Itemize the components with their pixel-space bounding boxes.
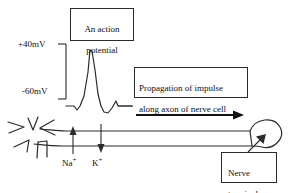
axon-membrane-lower xyxy=(34,144,252,146)
callout-nerve-terminal-line2: terminal xyxy=(228,189,276,193)
bouton-outline xyxy=(250,120,282,148)
ion-label-sodium: Na+ xyxy=(62,156,76,168)
dendrites xyxy=(8,117,55,158)
potassium-charge: + xyxy=(99,156,103,164)
sodium-charge: + xyxy=(73,156,77,164)
callout-propagation: Propagation of impulse along axon of ner… xyxy=(134,67,248,98)
dendrite-upper-left xyxy=(8,122,24,133)
dendrite-upper-right xyxy=(40,120,55,135)
voltage-axis xyxy=(58,44,66,99)
callout-nerve-terminal-line1: Nerve xyxy=(228,168,276,179)
nerve-terminal-bouton xyxy=(250,120,282,148)
dendrite-upper-mid xyxy=(28,117,38,130)
callout-action-potential: An action potential xyxy=(70,8,134,41)
action-potential-diagram: +40mV -60mV Na+ K+ An action potential P… xyxy=(0,0,300,193)
sodium-influx-arrow xyxy=(70,126,77,154)
potassium-efflux-arrow xyxy=(98,124,105,153)
callout-propagation-line2: along axon of nerve cell xyxy=(139,104,247,115)
axis-label-plus-40mv: +40mV xyxy=(18,39,46,49)
axon xyxy=(34,129,252,146)
potassium-arrow-head xyxy=(98,144,105,153)
dendrite-lower-mid-2 xyxy=(38,141,47,157)
callout-propagation-line1: Propagation of impulse xyxy=(139,83,247,94)
callout-nerve-terminal: Nerve terminal xyxy=(221,152,277,183)
ion-label-potassium: K+ xyxy=(92,156,102,168)
callout-action-potential-line2: potential xyxy=(71,45,133,56)
axis-label-minus-60mv: -60mV xyxy=(22,86,48,96)
dendrite-lower-left xyxy=(14,140,29,152)
callout-action-potential-line1: An action xyxy=(71,24,133,35)
sodium-symbol: Na xyxy=(62,158,73,168)
